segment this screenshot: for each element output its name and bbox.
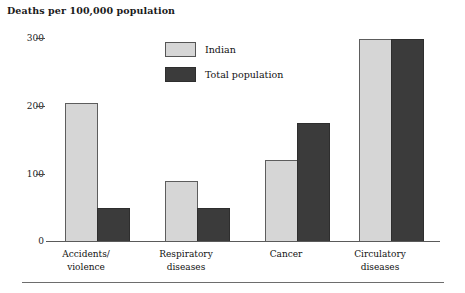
- x-axis-label-line2: violence: [40, 261, 132, 274]
- bar-indian-cancer: [265, 160, 298, 242]
- bar-chart-figure: Deaths per 100,000 population Indian Tot…: [0, 0, 465, 293]
- plot-area: [46, 38, 440, 242]
- x-axis-label-line1: Respiratory: [140, 248, 232, 261]
- bar-total-circulatory-diseases: [391, 39, 424, 242]
- x-axis-label-line2: diseases: [334, 261, 426, 274]
- bar-indian-respiratory-diseases: [165, 181, 198, 242]
- x-axis-label-circulatory-diseases: Circulatory diseases: [334, 248, 426, 273]
- x-axis-label-line1: Accidents/: [40, 248, 132, 261]
- bar-total-cancer: [297, 123, 330, 242]
- bar-total-respiratory-diseases: [197, 208, 230, 242]
- x-axis-label-line1: Circulatory: [334, 248, 426, 261]
- chart-axis-title: Deaths per 100,000 population: [7, 5, 175, 16]
- y-axis-tick-label-0: 0: [0, 237, 44, 246]
- x-axis-label-line2: diseases: [140, 261, 232, 274]
- x-axis-label-respiratory-diseases: Respiratory diseases: [140, 248, 232, 273]
- figure-footer-rule: [22, 282, 444, 283]
- x-axis-baseline: [46, 241, 440, 242]
- y-axis-tickmark-300: [36, 38, 45, 39]
- bar-total-accidents-violence: [97, 208, 130, 242]
- y-axis-tickmark-200: [36, 106, 45, 107]
- y-axis-tickmark-100: [36, 174, 45, 175]
- x-axis-label-cancer: Cancer: [240, 248, 332, 261]
- x-axis-label-accidents-violence: Accidents/ violence: [40, 248, 132, 273]
- bar-indian-accidents-violence: [65, 103, 98, 242]
- x-axis-label-line1: Cancer: [240, 248, 332, 261]
- bar-indian-circulatory-diseases: [359, 39, 392, 242]
